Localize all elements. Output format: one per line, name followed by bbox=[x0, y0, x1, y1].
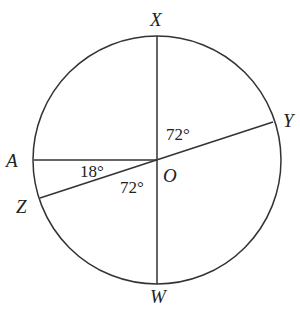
label-x: X bbox=[149, 9, 163, 30]
label-w: W bbox=[150, 286, 168, 307]
angle-xoy: 72° bbox=[166, 125, 190, 144]
angle-aoz: 18° bbox=[80, 162, 104, 181]
label-a: A bbox=[4, 150, 18, 171]
angle-zow: 72° bbox=[120, 178, 144, 197]
label-z: Z bbox=[16, 196, 27, 217]
label-y: Y bbox=[283, 110, 296, 131]
label-o: O bbox=[163, 165, 177, 186]
circle-diagram: X Y A Z W O 72° 18° 72° bbox=[0, 0, 300, 311]
